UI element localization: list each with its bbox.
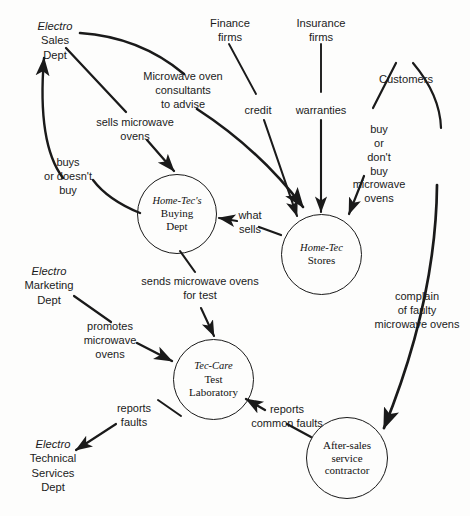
entity-electro-technical-services-dept-line-2: Services — [14, 466, 92, 480]
connector-sends-for-test — [201, 308, 214, 336]
process-home-tec-stores-italic: Home-Tec — [300, 242, 343, 254]
flow-label-buy-or-dont-buy-microwave-ovens: buy or don't buy microwave ovens — [341, 123, 417, 206]
flow-label-sends-line-2: for test — [126, 289, 274, 303]
flow-label-complain-of-faulty-microwave-ovens: complain of faulty microwave ovens — [367, 290, 467, 332]
entity-electro-sales-dept[interactable]: Electro Sales Dept — [24, 19, 86, 62]
flow-label-buy-line-1: buy — [341, 123, 417, 137]
connector-credit — [264, 120, 297, 216]
entity-electro-sales-dept-italic: Electro — [24, 19, 86, 33]
entity-electro-technical-services-dept-line-1: Technical — [14, 451, 92, 465]
entity-finance-firms-line-1: Finance — [198, 16, 262, 30]
flow-label-buy-line-4: buy — [341, 165, 417, 179]
connector-microwave-oven-consultants — [80, 33, 184, 74]
entity-electro-marketing-dept[interactable]: Electro Marketing Dept — [10, 264, 88, 307]
flow-label-what-sells-line-1: what — [228, 209, 272, 223]
entity-electro-marketing-dept-italic: Electro — [10, 264, 88, 278]
flow-label-promotes-line-3: ovens — [75, 348, 145, 362]
flow-label-sends-line-1: sends microwave ovens — [126, 275, 274, 289]
process-after-sales-contractor-line-2: service — [331, 452, 362, 465]
flow-label-microwave-oven-consultants: Microwave oven consultants to advise — [134, 70, 232, 112]
entity-electro-marketing-dept-line-2: Dept — [10, 293, 88, 307]
flow-label-buy-line-6: ovens — [341, 192, 417, 206]
flow-label-consultants-line-1: Microwave oven — [134, 70, 232, 84]
flow-label-sells-line-2: ovens — [85, 130, 185, 144]
connector-reports-faults-tail — [158, 400, 181, 416]
flow-label-promotes-line-1: promotes — [75, 320, 145, 334]
process-buying-dept-italic: Home-Tec's — [152, 195, 201, 207]
flow-label-complain-line-3: microwave ovens — [367, 318, 467, 332]
flow-label-buy-line-5: microwave — [341, 178, 417, 192]
flow-label-sells-line-1: sells microwave — [85, 116, 185, 130]
entity-electro-technical-services-dept-italic: Electro — [14, 437, 92, 451]
flow-label-credit: credit — [237, 104, 279, 118]
flow-label-what-sells: what sells — [228, 209, 272, 237]
entity-insurance-firms-line-1: Insurance — [286, 16, 356, 30]
entity-finance-firms[interactable]: Finance firms — [198, 16, 262, 45]
flow-label-promotes-microwave-ovens: promotes microwave ovens — [75, 320, 145, 362]
process-tec-care-lab-italic: Tec-Care — [194, 360, 232, 372]
flow-label-reports-common-faults: reports common faults — [240, 403, 334, 431]
entity-electro-technical-services-dept[interactable]: Electro Technical Services Dept — [14, 437, 92, 494]
flow-label-complain-line-2: of faulty — [367, 304, 467, 318]
flow-label-consultants-line-2: consultants — [134, 84, 232, 98]
flow-label-buy-line-2: or — [341, 137, 417, 151]
entity-customers-line-1: Customers — [371, 72, 441, 86]
diagram-canvas: Home-Tec's Buying Dept Home-Tec Stores T… — [0, 0, 470, 516]
flow-label-credit-line-1: credit — [237, 104, 279, 118]
flow-label-consultants-line-3: to advise — [134, 98, 232, 112]
process-tec-care-lab-line-1: Test — [204, 373, 222, 386]
entity-insurance-firms-line-2: firms — [286, 30, 356, 44]
process-buying-dept-line-1: Buying — [161, 207, 193, 220]
flow-label-buys-or-doesnt-buy: buys or doesn't buy — [33, 156, 103, 198]
flow-label-reports-common-line-1: reports — [240, 403, 334, 417]
entity-insurance-firms[interactable]: Insurance firms — [286, 16, 356, 45]
flow-label-what-sells-line-2: sells — [228, 223, 272, 237]
flow-label-reports-faults: reports faults — [107, 402, 161, 430]
entity-electro-sales-dept-line-1: Sales — [24, 33, 86, 47]
entity-finance-firms-line-2: firms — [198, 30, 262, 44]
flow-label-warranties: warranties — [290, 104, 352, 118]
entity-electro-sales-dept-line-2: Dept — [24, 48, 86, 62]
connector-credit-head — [229, 44, 256, 94]
flow-label-sells-microwave-ovens: sells microwave ovens — [85, 116, 185, 144]
flow-label-reports-common-line-2: common faults — [240, 417, 334, 431]
entity-electro-technical-services-dept-line-3: Dept — [14, 480, 92, 494]
flow-label-complain-line-1: complain — [367, 290, 467, 304]
process-tec-care-lab-line-2: Laboratory — [189, 386, 238, 399]
flow-label-reports-faults-line-1: reports — [107, 402, 161, 416]
process-after-sales-contractor-line-3: contractor — [325, 464, 370, 477]
process-home-tec-stores-line-1: Stores — [308, 254, 336, 267]
connector-sells-microwave-ovens — [147, 140, 174, 171]
process-buying-dept-line-2: Dept — [166, 220, 187, 233]
connector-consultants-tail — [197, 109, 303, 207]
process-after-sales-contractor-line-1: After-sales — [323, 439, 371, 452]
process-buying-dept[interactable]: Home-Tec's Buying Dept — [137, 174, 217, 254]
flow-label-buys-line-2: or doesn't — [33, 170, 103, 184]
process-home-tec-stores[interactable]: Home-Tec Stores — [281, 214, 362, 295]
flow-label-sends-microwave-ovens-for-test: sends microwave ovens for test — [126, 275, 274, 303]
flow-label-reports-faults-line-2: faults — [107, 416, 161, 430]
flow-label-promotes-line-2: microwave — [75, 334, 145, 348]
connector-sends-for-test-head — [180, 251, 195, 272]
entity-electro-marketing-dept-line-1: Marketing — [10, 278, 88, 292]
entity-customers[interactable]: Customers — [371, 72, 441, 86]
flow-label-buys-line-3: buy — [33, 184, 103, 198]
flow-label-buys-line-1: buys — [33, 156, 103, 170]
flow-label-warranties-line-1: warranties — [290, 104, 352, 118]
flow-label-buy-line-3: don't — [341, 151, 417, 165]
